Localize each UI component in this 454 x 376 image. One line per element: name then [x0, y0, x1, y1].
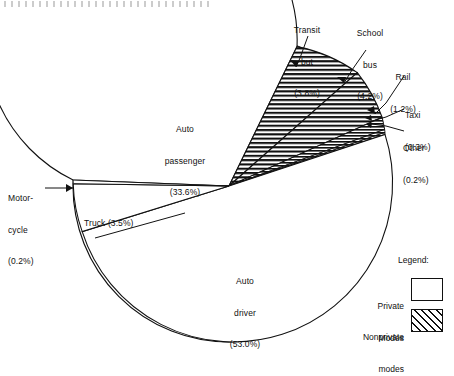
label-rail-line1: Rail	[378, 72, 428, 83]
label-transit-bus: Transit but (3.8%)	[278, 4, 336, 120]
label-auto-passenger-line3: (33.6%)	[140, 187, 230, 198]
legend-label-private-line1: Private	[340, 301, 404, 312]
label-other-line1: Other	[403, 143, 453, 154]
label-other: Other (0.2%)	[403, 122, 453, 206]
label-transit-bus-line1: Transit	[278, 25, 336, 36]
label-other-line2: (0.2%)	[403, 175, 453, 186]
label-transit-bus-line3: (3.8%)	[278, 88, 336, 99]
label-motorcycle-line3: (0.2%)	[8, 256, 54, 267]
legend-swatch-private	[411, 278, 443, 301]
label-school-bus-line1: School	[342, 28, 398, 39]
label-auto-driver-line1: Auto	[205, 276, 285, 287]
legend-title: Legend:	[398, 255, 429, 266]
label-motorcycle-line1: Motor-	[8, 193, 54, 204]
legend-swatch-nonprivate	[411, 309, 443, 332]
label-auto-passenger-line2: passenger	[140, 156, 230, 167]
label-motorcycle: Motor- cycle (0.2%)	[8, 172, 54, 288]
label-auto-driver-line2: driver	[205, 308, 285, 319]
legend-label-nonprivate-line2: modes	[328, 364, 404, 375]
label-auto-passenger-line1: Auto	[140, 124, 230, 135]
legend-label-nonprivate: Nonprivate modes	[328, 311, 404, 376]
label-taxi-line1: Taxi	[405, 110, 453, 121]
label-truck: Truck (3.5%)	[84, 197, 174, 250]
label-auto-driver-line3: (53.0%)	[205, 339, 285, 350]
label-auto-driver: Auto driver (53.0%)	[205, 255, 285, 371]
label-truck-line1: Truck (3.5%)	[84, 218, 174, 229]
label-transit-bus-line2: but	[278, 57, 336, 68]
label-motorcycle-line2: cycle	[8, 225, 54, 236]
legend-label-nonprivate-line1: Nonprivate	[328, 332, 404, 343]
